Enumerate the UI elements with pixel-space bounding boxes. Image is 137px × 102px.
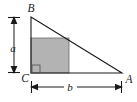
vertex-label-b: B bbox=[27, 2, 34, 14]
vertex-label-a: A bbox=[124, 73, 133, 85]
geometry-figure: B C A a b bbox=[0, 0, 137, 102]
inscribed-rectangle bbox=[31, 38, 69, 73]
geometry-diagram-canvas: B C A a b bbox=[0, 0, 137, 102]
vertex-label-c: C bbox=[21, 72, 29, 84]
height-label: a bbox=[10, 42, 16, 54]
base-label: b bbox=[67, 81, 73, 93]
